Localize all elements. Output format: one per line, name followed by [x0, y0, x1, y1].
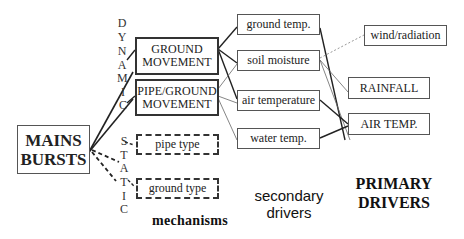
dynamic-letter: M: [117, 72, 127, 84]
ground-type-label: ground type: [149, 181, 207, 196]
water-temp-node: water temp.: [237, 128, 320, 149]
wind-radiation-node: wind/radiation: [364, 25, 447, 46]
pipe-ground-movement-line1: PIPE/GROUND: [137, 85, 216, 98]
air-temp-node: AIR TEMP.: [348, 113, 430, 135]
dynamic-letter: A: [117, 59, 127, 71]
secondary-heading-line2: drivers: [244, 204, 334, 221]
secondary-drivers-heading: secondary drivers: [244, 187, 334, 221]
static-letter: T: [119, 176, 129, 188]
static-letter: T: [119, 149, 129, 161]
static-letter: C: [119, 203, 129, 215]
primary-drivers-heading: PRIMARY DRIVERS: [344, 174, 444, 212]
soil-moisture-node: soil moisture: [237, 50, 320, 71]
secondary-heading-line1: secondary: [244, 187, 334, 204]
mechanisms-heading-text: mechanisms: [152, 213, 228, 228]
dynamic-letter: Y: [117, 31, 127, 43]
air-temp-label: AIR TEMP.: [360, 117, 417, 132]
ground-temp-node: ground temp.: [237, 14, 320, 35]
pipe-ground-movement-node: PIPE/GROUND MOVEMENT: [135, 79, 219, 116]
pipe-ground-movement-line2: MOVEMENT: [142, 98, 211, 111]
dynamic-letter: N: [117, 45, 127, 57]
static-letter: A: [119, 162, 129, 174]
air-temperature-node: air temperature: [237, 90, 320, 111]
mechanisms-heading: mechanisms: [140, 213, 240, 229]
mains-bursts-line2: BURSTS: [20, 150, 86, 169]
primary-heading-line2: DRIVERS: [344, 193, 444, 212]
static-letter: S: [119, 135, 129, 147]
ground-movement-node: GROUND MOVEMENT: [135, 37, 219, 75]
mains-bursts-line1: MAINS: [25, 131, 82, 150]
static-letter: I: [119, 190, 129, 202]
rainfall-label: RAINFALL: [360, 81, 418, 96]
dynamic-letter: C: [118, 99, 128, 111]
pipe-type-label: pipe type: [155, 137, 199, 152]
ground-movement-line2: MOVEMENT: [142, 56, 211, 69]
ground-temp-label: ground temp.: [247, 17, 311, 32]
mains-bursts-node: MAINS BURSTS: [17, 125, 90, 174]
water-temp-label: water temp.: [250, 131, 307, 146]
wind-radiation-label: wind/radiation: [371, 28, 441, 43]
dynamic-letter: I: [118, 86, 128, 98]
pipe-type-node: pipe type: [136, 134, 219, 155]
ground-type-node: ground type: [136, 178, 219, 199]
air-temperature-label: air temperature: [242, 93, 315, 108]
dynamic-letter: D: [117, 17, 127, 29]
rainfall-node: RAINFALL: [348, 77, 430, 99]
primary-heading-line1: PRIMARY: [344, 174, 444, 193]
soil-moisture-label: soil moisture: [247, 53, 309, 68]
